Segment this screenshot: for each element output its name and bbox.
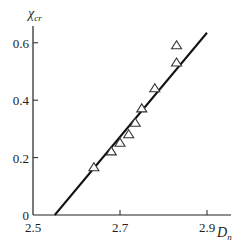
y-tick-label: 0.4 <box>13 93 30 108</box>
y-tick-label: 0 <box>23 208 30 223</box>
triangle-marker-icon <box>172 41 182 49</box>
x-tick-label: 2.9 <box>199 220 215 235</box>
ticks: 2.52.72.900.20.40.6 <box>13 36 215 235</box>
fit-line <box>55 33 207 215</box>
chart: 2.52.72.900.20.40.6 χcr Dn <box>0 0 244 251</box>
y-axis-label: χcr <box>26 6 42 23</box>
data-points <box>89 41 182 171</box>
axes <box>33 26 231 215</box>
x-axis-label: Dn <box>216 225 232 242</box>
x-tick-label: 2.7 <box>112 220 129 235</box>
fit-line-path <box>55 33 207 215</box>
triangle-marker-icon <box>172 58 182 66</box>
y-tick-label: 0.6 <box>13 36 30 51</box>
triangle-marker-icon <box>150 84 160 92</box>
y-tick-label: 0.2 <box>13 151 29 166</box>
